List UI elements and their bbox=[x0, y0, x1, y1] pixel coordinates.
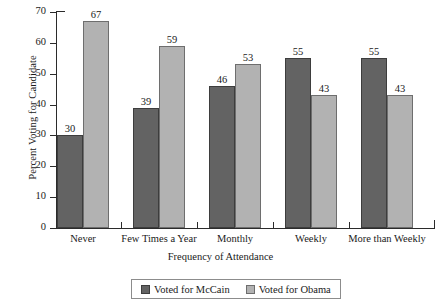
bar: 55 bbox=[285, 58, 311, 228]
y-axis-tick-label: 10 bbox=[36, 190, 47, 201]
bar-value-label: 59 bbox=[167, 34, 178, 45]
bar: 46 bbox=[209, 86, 235, 228]
bar-value-label: 39 bbox=[141, 96, 152, 107]
grouped-bar-chart: Percent Voting for Candidate 01020304050… bbox=[0, 0, 441, 308]
y-axis-tick: 70 bbox=[50, 12, 57, 13]
bar-value-label: 67 bbox=[91, 9, 102, 20]
y-axis-tick: 40 bbox=[50, 105, 57, 106]
bar-value-label: 43 bbox=[319, 83, 330, 94]
y-axis-tick: 50 bbox=[50, 74, 57, 75]
y-axis-tick-label: 0 bbox=[41, 221, 46, 232]
bar-value-label: 30 bbox=[65, 123, 76, 134]
legend-entry: Voted for McCain bbox=[141, 284, 230, 295]
bar: 59 bbox=[159, 46, 185, 228]
bar: 30 bbox=[57, 135, 83, 228]
y-axis-tick-label: 40 bbox=[36, 98, 47, 109]
y-axis-tick-label: 60 bbox=[36, 36, 47, 47]
y-axis-tick: 60 bbox=[50, 43, 57, 44]
legend-label: Voted for Obama bbox=[259, 284, 331, 295]
x-axis-line bbox=[56, 228, 435, 229]
bar-value-label: 53 bbox=[243, 52, 254, 63]
y-axis-title: Percent Voting for Candidate bbox=[27, 18, 38, 218]
bar-value-label: 46 bbox=[217, 74, 228, 85]
plot-area: 30673959465355435543 bbox=[57, 12, 435, 228]
legend-label: Voted for McCain bbox=[154, 284, 230, 295]
chart-legend: Voted for McCainVoted for Obama bbox=[131, 279, 341, 299]
bar: 43 bbox=[387, 95, 413, 228]
y-axis-tick-label: 30 bbox=[36, 128, 47, 139]
x-axis-category-label: More than Weekly bbox=[327, 233, 441, 244]
bar-value-label: 55 bbox=[369, 46, 380, 57]
bar-value-label: 55 bbox=[293, 46, 304, 57]
bar: 39 bbox=[133, 108, 159, 228]
y-axis-tick: 30 bbox=[50, 135, 57, 136]
bar: 53 bbox=[235, 64, 261, 228]
legend-swatch-icon bbox=[246, 285, 255, 294]
y-axis-tick: 0 bbox=[50, 228, 57, 229]
bar: 67 bbox=[83, 21, 109, 228]
y-axis-tick-label: 70 bbox=[36, 5, 47, 16]
legend-swatch-icon bbox=[141, 285, 150, 294]
bar: 43 bbox=[311, 95, 337, 228]
y-axis-tick: 20 bbox=[50, 166, 57, 167]
bar: 55 bbox=[361, 58, 387, 228]
y-axis-tick-label: 20 bbox=[36, 159, 47, 170]
y-axis-tick-label: 50 bbox=[36, 67, 47, 78]
bar-value-label: 43 bbox=[395, 83, 406, 94]
y-axis-tick: 10 bbox=[50, 197, 57, 198]
legend-entry: Voted for Obama bbox=[246, 284, 331, 295]
x-axis-title: Frequency of Attendance bbox=[0, 251, 441, 262]
